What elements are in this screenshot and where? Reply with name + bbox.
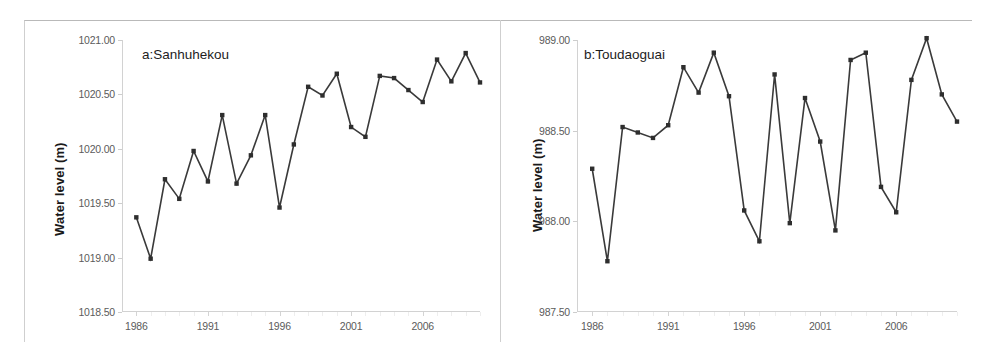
data-point-marker [818, 139, 822, 143]
data-point-marker [879, 185, 883, 189]
y-tick-label: 988.50 [539, 125, 570, 137]
x-tick-label: 1986 [125, 320, 148, 332]
y-tick-label: 1019.00 [78, 252, 115, 264]
panel-toudaoguai: Water level (m) b:Toudaoguai 987.50988.0… [500, 0, 991, 362]
x-tick-mark [957, 312, 958, 316]
data-point-marker [727, 94, 731, 98]
data-point-marker [392, 76, 396, 80]
x-tick-mark [179, 312, 180, 316]
x-tick-mark [592, 312, 593, 316]
x-tick-mark [775, 312, 776, 316]
x-tick-label: 2001 [809, 320, 832, 332]
panel-sanhuhekou: Water level (m) a:Sanhuhekou 1018.501019… [0, 0, 500, 362]
data-point-marker [788, 221, 792, 225]
x-tick-mark [280, 312, 281, 316]
x-tick-mark [451, 312, 452, 316]
data-point-marker [363, 135, 367, 139]
data-point-marker [263, 113, 267, 117]
x-tick-mark [380, 312, 381, 316]
data-point-marker [666, 123, 670, 127]
x-tick-mark [759, 312, 760, 316]
data-point-marker [772, 72, 776, 76]
x-tick-mark [714, 312, 715, 316]
x-tick-label: 1991 [197, 320, 220, 332]
x-tick-mark [480, 312, 481, 316]
data-point-marker [590, 167, 594, 171]
x-tick-mark [942, 312, 943, 316]
data-point-marker [742, 208, 746, 212]
data-point-marker [681, 65, 685, 69]
x-tick-mark [466, 312, 467, 316]
data-point-marker [421, 100, 425, 104]
data-point-marker [605, 259, 609, 263]
x-tick-label: 1996 [733, 320, 756, 332]
data-point-marker [955, 119, 959, 123]
y-tick-label: 987.50 [539, 306, 570, 318]
x-tick-mark [165, 312, 166, 316]
series-line-sanhuhekou [122, 40, 480, 312]
x-tick-label: 2001 [340, 320, 363, 332]
x-tick-mark [151, 312, 152, 316]
data-point-marker [148, 256, 152, 260]
x-tick-mark [699, 312, 700, 316]
data-point-marker [478, 80, 482, 84]
x-tick-mark [208, 312, 209, 316]
data-point-marker [909, 78, 913, 82]
figure-root: Water level (m) a:Sanhuhekou 1018.501019… [0, 0, 991, 362]
data-point-marker [636, 130, 640, 134]
x-tick-mark [351, 312, 352, 316]
x-tick-mark [668, 312, 669, 316]
data-point-marker [940, 92, 944, 96]
data-point-marker [349, 125, 353, 129]
data-point-marker [894, 210, 898, 214]
data-point-marker [134, 215, 138, 219]
x-tick-mark [322, 312, 323, 316]
x-tick-mark [851, 312, 852, 316]
data-point-marker [292, 142, 296, 146]
y-axis-title: Water level (m) [52, 143, 67, 237]
x-tick-mark [623, 312, 624, 316]
x-tick-mark [911, 312, 912, 316]
x-tick-mark [835, 312, 836, 316]
x-tick-mark [638, 312, 639, 316]
data-point-marker [620, 125, 624, 129]
data-point-marker [406, 88, 410, 92]
x-tick-label: 2006 [411, 320, 434, 332]
x-tick-mark [194, 312, 195, 316]
x-tick-mark [136, 312, 137, 316]
x-tick-mark [881, 312, 882, 316]
x-tick-mark [790, 312, 791, 316]
x-tick-label: 1996 [268, 320, 291, 332]
data-point-marker [864, 50, 868, 54]
data-point-marker [277, 205, 281, 209]
data-point-marker [335, 72, 339, 76]
x-tick-mark [337, 312, 338, 316]
x-tick-mark [308, 312, 309, 316]
x-tick-label: 1986 [581, 320, 604, 332]
x-tick-mark [653, 312, 654, 316]
x-tick-mark [265, 312, 266, 316]
data-point-marker [696, 90, 700, 94]
x-tick-mark [744, 312, 745, 316]
y-tick-label: 1020.00 [78, 143, 115, 155]
x-tick-mark [222, 312, 223, 316]
x-tick-mark [896, 312, 897, 316]
data-point-marker [163, 177, 167, 181]
x-tick-label: 2006 [885, 320, 908, 332]
x-tick-mark [437, 312, 438, 316]
data-point-marker [651, 136, 655, 140]
x-tick-mark [729, 312, 730, 316]
data-point-marker [249, 153, 253, 157]
data-point-marker [848, 58, 852, 62]
x-tick-mark [423, 312, 424, 316]
data-point-marker [306, 85, 310, 89]
data-point-marker [206, 179, 210, 183]
x-tick-mark [251, 312, 252, 316]
x-tick-mark [237, 312, 238, 316]
plot-area: 987.50988.00988.50989.00 198619911996200… [577, 40, 957, 312]
x-tick-mark [820, 312, 821, 316]
x-tick-mark [866, 312, 867, 316]
data-point-marker [177, 197, 181, 201]
y-tick-label: 1019.50 [78, 197, 115, 209]
x-tick-mark [607, 312, 608, 316]
